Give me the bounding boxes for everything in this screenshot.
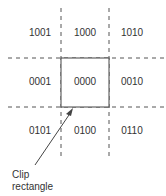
region-code-0110: 0110: [121, 125, 143, 136]
annotation-label-line2: rectangle: [12, 181, 54, 192]
region-code-0010: 0010: [121, 76, 144, 87]
region-code-0000: 0000: [74, 76, 97, 87]
annotation-label-line1: Clip: [12, 169, 30, 180]
region-code-0100: 0100: [74, 125, 97, 136]
region-code-1010: 1010: [121, 27, 144, 38]
annotation-arrow-line: [35, 112, 71, 165]
region-code-0101: 0101: [29, 125, 52, 136]
arrow-head-icon: [66, 108, 73, 116]
clip-region-diagram: 1001 1000 1010 0001 0000 0010 0101 0100 …: [0, 0, 166, 196]
region-code-1000: 1000: [74, 27, 97, 38]
region-code-1001: 1001: [29, 27, 52, 38]
region-code-0001: 0001: [29, 76, 52, 87]
